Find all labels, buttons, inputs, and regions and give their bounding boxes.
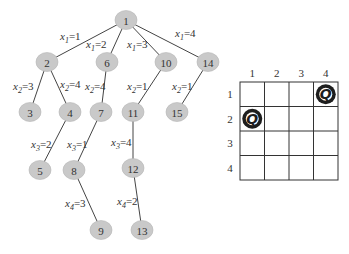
tree-node-7: 7 <box>90 103 112 122</box>
node-label: 8 <box>71 165 77 177</box>
node-label: 6 <box>104 57 110 69</box>
edge-label: x1=2 <box>85 38 107 53</box>
column-label: 3 <box>299 67 305 79</box>
column-label: 4 <box>323 67 329 79</box>
edge-label: x2=1 <box>126 80 148 95</box>
edge-label: x3=2 <box>30 138 52 153</box>
edge-label: x2=3 <box>12 80 34 95</box>
chess-board: 12341234QQ <box>227 67 338 180</box>
tree-node-12: 12 <box>122 159 144 178</box>
svg-text:Q: Q <box>246 111 258 127</box>
node-label: 3 <box>27 107 33 119</box>
tree-node-9: 9 <box>90 221 112 240</box>
edge-label: x1=3 <box>126 38 148 53</box>
edge-label: x4=2 <box>116 195 138 210</box>
node-label: 7 <box>98 107 104 119</box>
tree-node-11: 11 <box>122 103 144 122</box>
node-label: 2 <box>44 57 50 69</box>
queen-icon: Q <box>242 109 262 129</box>
row-label: 2 <box>227 113 233 125</box>
edge-label: x4=3 <box>64 197 86 212</box>
tree-node-3: 3 <box>19 103 41 122</box>
tree-node-1: 1 <box>115 11 137 30</box>
row-label: 4 <box>227 162 233 174</box>
edge-label: x1=4 <box>174 27 196 42</box>
tree-node-2: 2 <box>36 53 58 72</box>
column-label: 1 <box>250 67 256 79</box>
tree-node-15: 15 <box>166 103 188 122</box>
tree-node-6: 6 <box>96 53 118 72</box>
edge-label: x2=4 <box>59 78 81 93</box>
node-label: 9 <box>98 225 104 237</box>
column-label: 2 <box>274 67 280 79</box>
tree-node-10: 10 <box>155 53 177 72</box>
node-label: 13 <box>137 225 149 237</box>
svg-text:Q: Q <box>320 86 332 102</box>
node-label: 4 <box>67 107 73 119</box>
state-space-tree-and-board: x1=1x1=2x1=3x1=4x2=3x2=4x2=4x2=1x2=1x3=2… <box>0 0 349 254</box>
node-label: 11 <box>128 107 139 119</box>
tree-node-8: 8 <box>63 161 85 180</box>
edge-label: x3=1 <box>66 138 88 153</box>
queen-icon: Q <box>316 84 336 104</box>
tree-node-14: 14 <box>197 53 219 72</box>
tree-node-5: 5 <box>29 161 51 180</box>
edge-label: x3=4 <box>110 136 132 151</box>
tree-node-4: 4 <box>59 103 81 122</box>
node-label: 1 <box>123 15 129 27</box>
node-label: 5 <box>37 165 43 177</box>
node-label: 10 <box>161 57 173 69</box>
edge-label: x2=4 <box>84 80 106 95</box>
node-label: 14 <box>203 57 215 69</box>
node-label: 15 <box>172 107 184 119</box>
tree-node-13: 13 <box>131 221 153 240</box>
row-label: 1 <box>227 88 233 100</box>
edge-label: x1=1 <box>59 30 81 45</box>
node-label: 12 <box>128 163 139 175</box>
row-label: 3 <box>227 137 233 149</box>
